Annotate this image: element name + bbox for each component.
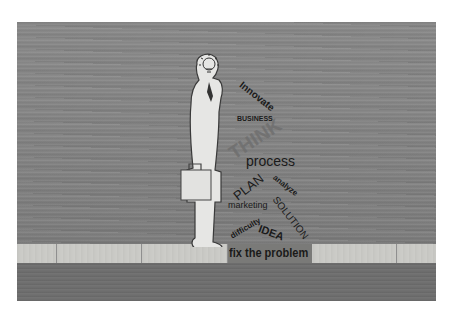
strip-segment <box>397 244 436 263</box>
word-marketing: marketing <box>228 200 268 210</box>
strip-segment <box>313 244 397 263</box>
word-idea: IDEA <box>257 222 286 242</box>
word-fix-the-problem: fix the problem <box>229 245 308 260</box>
word-process: process <box>246 153 295 169</box>
strip-segment <box>57 244 142 263</box>
wood-photo: Innovate BUSINESS THINK process analyze … <box>17 22 436 301</box>
word-analyze: analyze <box>271 173 299 198</box>
strip-segment <box>17 244 57 263</box>
dark-wood-lower <box>17 263 436 301</box>
